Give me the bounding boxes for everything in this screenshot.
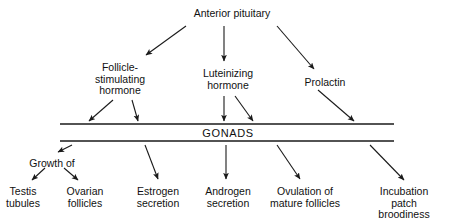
arrow-lh-to-gonads-right — [235, 96, 253, 121]
node-incubation-patch-broodiness: Incubation patch broodiness — [374, 186, 435, 221]
endocrine-flow-diagram: Anterior pituitary Follicle- stimulating… — [0, 0, 465, 221]
node-anterior-pituitary: Anterior pituitary — [194, 8, 270, 20]
node-ovarian-follicles: Ovarian follicles — [67, 186, 104, 209]
arrow-layer — [32, 26, 404, 180]
arrow-gonads-to-estrogen-secretion — [145, 145, 158, 179]
arrow-gonads-to-growth-of — [58, 145, 72, 152]
node-growth-of: Growth of — [29, 158, 75, 170]
node-androgen-secretion: Androgen secretion — [205, 186, 251, 209]
node-ovulation-of-mature-follicles: Ovulation of mature follicles — [270, 186, 340, 209]
arrow-fsh-to-gonads-left — [89, 100, 113, 121]
node-estrogen-secretion: Estrogen secretion — [137, 186, 180, 209]
arrow-gonads-to-ovulation — [277, 145, 300, 179]
node-prolactin: Prolactin — [305, 77, 346, 89]
arrow-prolactin-to-gonads — [318, 90, 354, 121]
node-follicle-stimulating-hormone: Follicle- stimulating hormone — [95, 62, 145, 97]
arrow-fsh-to-gonads-right — [132, 100, 138, 121]
arrow-growth-of-to-ovarian-follicles — [64, 168, 78, 180]
arrow-pituitary-to-prolactin — [277, 26, 314, 69]
node-gonads: GONADS — [202, 128, 253, 140]
arrow-growth-of-to-testis-tubules — [32, 168, 45, 180]
arrow-gonads-to-incubation-patch — [370, 145, 404, 180]
node-luteinizing-hormone: Luteinizing hormone — [203, 68, 253, 91]
arrow-pituitary-to-fsh — [146, 26, 186, 55]
node-testis-tubules: Testis tubules — [6, 186, 40, 209]
